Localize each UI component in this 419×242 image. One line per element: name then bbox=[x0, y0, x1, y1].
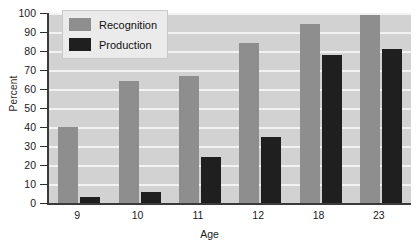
y-tick-label: 90 bbox=[10, 27, 36, 37]
y-tick-mark bbox=[40, 127, 47, 128]
legend-label-production: Production bbox=[99, 39, 152, 51]
x-tick-label: 11 bbox=[168, 209, 228, 221]
y-tick-label: 70 bbox=[10, 65, 36, 75]
bar-production-18[interactable] bbox=[322, 55, 342, 203]
y-tick-mark bbox=[40, 70, 47, 71]
legend: Recognition Production bbox=[62, 10, 168, 59]
x-tick-label: 23 bbox=[349, 209, 409, 221]
y-tick-mark bbox=[40, 165, 47, 166]
legend-label-recognition: Recognition bbox=[99, 19, 157, 31]
y-axis-ticks: 0102030405060708090100 bbox=[6, 0, 36, 242]
y-tick-mark bbox=[40, 51, 47, 52]
bar-production-10[interactable] bbox=[141, 192, 161, 203]
legend-item-recognition: Recognition bbox=[69, 16, 157, 33]
legend-item-production: Production bbox=[69, 36, 157, 53]
y-tick-mark bbox=[40, 203, 47, 204]
x-tick-label: 12 bbox=[228, 209, 288, 221]
y-tick-label: 80 bbox=[10, 46, 36, 56]
legend-swatch-recognition bbox=[69, 18, 91, 31]
y-tick-mark bbox=[40, 13, 47, 14]
y-tick-label: 100 bbox=[10, 8, 36, 18]
y-tick-mark bbox=[40, 146, 47, 147]
bar-recognition-23[interactable] bbox=[360, 15, 380, 203]
bar-recognition-11[interactable] bbox=[179, 76, 199, 203]
y-tick-mark bbox=[40, 108, 47, 109]
bar-production-9[interactable] bbox=[80, 197, 100, 203]
x-axis-label: Age bbox=[0, 228, 419, 240]
x-tick-label: 9 bbox=[47, 209, 107, 221]
legend-swatch-production bbox=[69, 38, 91, 51]
bar-production-12[interactable] bbox=[261, 137, 281, 204]
x-tick-label: 10 bbox=[108, 209, 168, 221]
y-tick-label: 50 bbox=[10, 103, 36, 113]
y-tick-mark bbox=[40, 89, 47, 90]
bar-group bbox=[179, 13, 221, 203]
y-tick-label: 60 bbox=[10, 84, 36, 94]
bar-group bbox=[239, 13, 281, 203]
bar-recognition-12[interactable] bbox=[239, 43, 259, 203]
y-tick-label: 30 bbox=[10, 141, 36, 151]
x-tick-label: 18 bbox=[289, 209, 349, 221]
bar-group bbox=[300, 13, 342, 203]
bar-production-23[interactable] bbox=[382, 49, 402, 203]
y-tick-mark bbox=[40, 32, 47, 33]
bar-group bbox=[360, 13, 402, 203]
y-tick-label: 40 bbox=[10, 122, 36, 132]
y-tick-mark bbox=[40, 184, 47, 185]
bar-production-11[interactable] bbox=[201, 157, 221, 203]
bar-chart: Percent 0102030405060708090100 Recogniti… bbox=[0, 0, 419, 242]
bar-recognition-18[interactable] bbox=[300, 24, 320, 203]
y-tick-label: 20 bbox=[10, 160, 36, 170]
y-tick-label: 0 bbox=[10, 198, 36, 208]
bar-recognition-10[interactable] bbox=[119, 81, 139, 203]
y-tick-label: 10 bbox=[10, 179, 36, 189]
bar-recognition-9[interactable] bbox=[58, 127, 78, 203]
